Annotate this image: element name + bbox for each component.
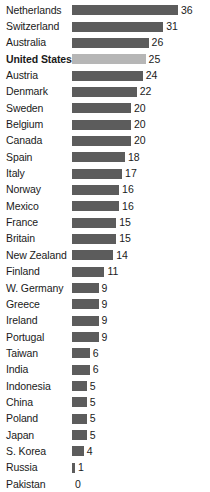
bar-area: 5: [72, 427, 210, 443]
value-label: 18: [125, 152, 140, 163]
value-label: 11: [104, 266, 118, 277]
bar: [72, 54, 146, 64]
bar-area: 15: [72, 214, 210, 230]
value-label: 20: [131, 135, 146, 146]
chart-row: Indonesia5: [0, 378, 210, 394]
value-label: 22: [137, 86, 152, 97]
chart-row: Switzerland31: [0, 18, 210, 34]
value-label: 5: [87, 413, 96, 424]
bar: [72, 38, 149, 48]
bar-area: 9: [72, 329, 210, 345]
chart-row: Ireland9: [0, 313, 210, 329]
chart-row: Italy17: [0, 165, 210, 181]
bar: [72, 71, 143, 81]
chart-row: Norway16: [0, 182, 210, 198]
category-label: S. Korea: [0, 446, 72, 457]
bar: [72, 201, 119, 211]
chart-row: China5: [0, 394, 210, 410]
bar-area: 36: [72, 2, 210, 18]
bar-area: 9: [72, 313, 210, 329]
category-label: Taiwan: [0, 348, 72, 359]
chart-row: Finland11: [0, 264, 210, 280]
bar-area: 14: [72, 247, 210, 263]
value-label: 31: [163, 21, 178, 32]
bar-area: 9: [72, 296, 210, 312]
chart-row: Belgium20: [0, 116, 210, 132]
chart-row: Greece9: [0, 296, 210, 312]
bar: [72, 152, 125, 162]
value-label: 6: [90, 364, 99, 375]
bar-area: 17: [72, 165, 210, 181]
bar-area: 5: [72, 394, 210, 410]
category-label: Denmark: [0, 86, 72, 97]
value-label: 26: [149, 37, 164, 48]
chart-row: Russia1: [0, 460, 210, 476]
bar-area: 15: [72, 231, 210, 247]
chart-row: United States25: [0, 51, 210, 67]
bar: [72, 5, 178, 15]
bar-area: 5: [72, 378, 210, 394]
category-label: Sweden: [0, 103, 72, 114]
category-label: Japan: [0, 430, 72, 441]
chart-row: Britain15: [0, 231, 210, 247]
value-label: 6: [90, 348, 99, 359]
value-label: 9: [99, 315, 108, 326]
chart-row: Spain18: [0, 149, 210, 165]
category-label: Netherlands: [0, 5, 72, 16]
category-label: Italy: [0, 168, 72, 179]
bar-area: 25: [72, 51, 210, 67]
category-label: China: [0, 397, 72, 408]
bar-area: 6: [72, 345, 210, 361]
category-label: Canada: [0, 135, 72, 146]
category-label: Russia: [0, 462, 72, 473]
value-label: 16: [119, 184, 134, 195]
value-label: 5: [87, 381, 96, 392]
category-label: Norway: [0, 184, 72, 195]
bar: [72, 316, 99, 326]
bar: [72, 136, 131, 146]
bar: [72, 120, 131, 130]
category-label: New Zealand: [0, 250, 72, 261]
bar-area: 26: [72, 35, 210, 51]
value-label: 9: [99, 332, 108, 343]
category-label: Spain: [0, 152, 72, 163]
bar-area: 24: [72, 67, 210, 83]
value-label: 9: [99, 299, 108, 310]
chart-row: Netherlands36: [0, 2, 210, 18]
chart-row: Portugal9: [0, 329, 210, 345]
chart-row: Taiwan6: [0, 345, 210, 361]
bar: [72, 234, 116, 244]
category-label: Austria: [0, 70, 72, 81]
bar: [72, 169, 122, 179]
bar: [72, 397, 87, 407]
category-label: India: [0, 364, 72, 375]
category-label: France: [0, 217, 72, 228]
category-label: Belgium: [0, 119, 72, 130]
category-label: Mexico: [0, 201, 72, 212]
bar-area: 4: [72, 443, 210, 459]
category-label: Greece: [0, 299, 72, 310]
chart-row: Australia26: [0, 35, 210, 51]
chart-row: India6: [0, 362, 210, 378]
chart-row: Mexico16: [0, 198, 210, 214]
bar: [72, 348, 90, 358]
bar-area: 20: [72, 100, 210, 116]
bar-area: 5: [72, 411, 210, 427]
category-label: Pakistan: [0, 479, 72, 490]
bar: [72, 299, 99, 309]
bar-area: 18: [72, 149, 210, 165]
value-label: 20: [131, 119, 146, 130]
bar: [72, 365, 90, 375]
category-label: Finland: [0, 266, 72, 277]
value-label: 17: [122, 168, 137, 179]
bar: [72, 332, 99, 342]
bar-area: 31: [72, 18, 210, 34]
chart-row: New Zealand14: [0, 247, 210, 263]
bar: [72, 267, 104, 277]
category-label: United States: [0, 54, 72, 65]
category-label: W. Germany: [0, 283, 72, 294]
bar: [72, 250, 113, 260]
chart-row: Austria24: [0, 67, 210, 83]
bar: [72, 414, 87, 424]
bar-area: 0: [72, 476, 210, 492]
